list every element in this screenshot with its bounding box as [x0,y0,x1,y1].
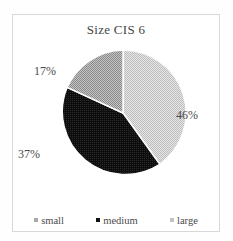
legend-item-small: small [34,215,64,226]
chart-title: Size CIS 6 [12,22,220,38]
chart-legend: small medium large [12,212,220,228]
pie-svg [60,50,186,176]
legend-label-small: small [41,215,64,226]
pie-label-small: 17% [34,64,56,79]
pie-label-medium: 37% [18,147,40,162]
pie-plot-area [60,50,186,176]
pie-label-large: 46% [176,108,198,123]
square-marker-gray-icon [34,218,38,222]
legend-label-medium: medium [103,215,137,226]
square-marker-lightgray-icon [170,218,174,222]
pie-chart-figure: Size CIS 6 [0,0,233,241]
legend-item-large: large [170,215,198,226]
legend-item-medium: medium [96,215,137,226]
square-marker-black-icon [96,218,100,222]
legend-label-large: large [177,215,198,226]
